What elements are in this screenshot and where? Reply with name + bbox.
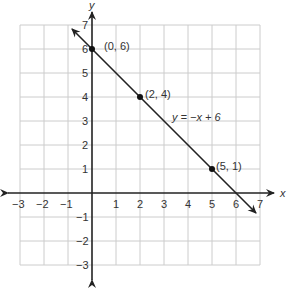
data-point — [209, 166, 215, 172]
data-point — [89, 46, 95, 52]
line-series — [92, 49, 256, 213]
axes — [8, 12, 274, 280]
svg-text:3: 3 — [82, 115, 88, 127]
svg-text:−2: −2 — [36, 198, 49, 210]
svg-text:−3: −3 — [12, 198, 25, 210]
svg-text:−2: −2 — [76, 235, 89, 247]
svg-text:2: 2 — [82, 139, 88, 151]
svg-text:−1: −1 — [60, 198, 73, 210]
svg-text:1: 1 — [113, 198, 119, 210]
point-label: (2, 4) — [145, 88, 171, 100]
svg-text:−3: −3 — [76, 259, 89, 271]
equation-label: y = −x + 6 — [171, 111, 221, 123]
data-point — [137, 94, 143, 100]
svg-text:7: 7 — [257, 198, 263, 210]
svg-text:1: 1 — [82, 163, 88, 175]
svg-text:3: 3 — [161, 198, 167, 210]
svg-text:6: 6 — [233, 198, 239, 210]
svg-text:4: 4 — [82, 91, 88, 103]
svg-text:−1: −1 — [76, 211, 89, 223]
y-axis-label: y — [88, 0, 96, 11]
svg-text:7: 7 — [82, 19, 88, 31]
svg-text:4: 4 — [185, 198, 191, 210]
x-tick-labels: −3 −2 −1 1 2 3 4 5 6 7 — [12, 198, 263, 210]
svg-text:2: 2 — [137, 198, 143, 210]
x-axis-label: x — [279, 187, 286, 199]
point-label: (0, 6) — [104, 40, 130, 52]
svg-text:5: 5 — [82, 67, 88, 79]
grid — [20, 25, 260, 265]
point-label: (5, 1) — [216, 160, 242, 172]
svg-text:5: 5 — [209, 198, 215, 210]
coordinate-plane: x y −3 −2 −1 1 2 3 4 5 6 7 7 6 5 4 3 2 1… — [0, 0, 289, 289]
